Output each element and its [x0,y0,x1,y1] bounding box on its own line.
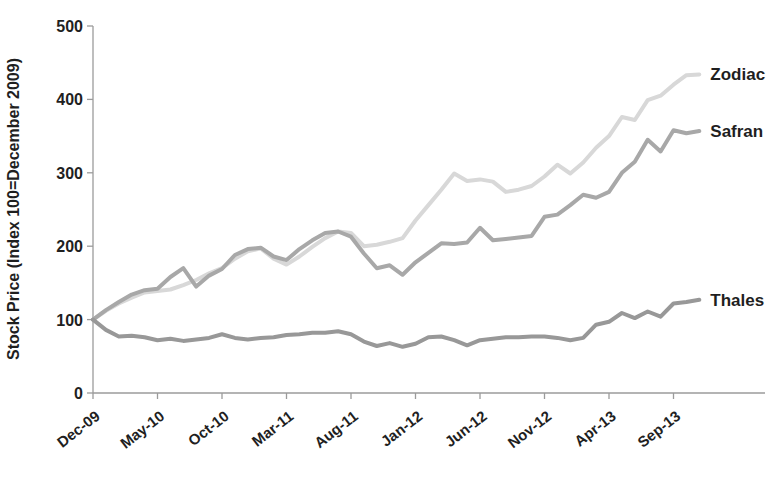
x-tick-label: Jan-12 [377,407,425,450]
series-lines [93,74,699,346]
y-tick-label: 0 [74,385,83,402]
series-label-thales: Thales [710,291,764,310]
y-tick-label: 100 [56,312,83,329]
series-label-zodiac: Zodiac [710,65,765,84]
series-labels: ZodiacSafranThales [710,65,765,309]
x-tick-label: Oct-10 [185,407,232,449]
stock-price-line-chart: Stock Price (Index 100=December 2009) 01… [0,0,770,482]
y-axis-ticks: 0100200300400500 [56,18,93,402]
x-tick-label: Apr-13 [571,407,619,450]
series-line-thales [93,300,699,347]
x-tick-label: Aug-11 [311,407,361,451]
y-axis-title: Stock Price (Index 100=December 2009) [5,58,22,360]
x-tick-label: Mar-11 [248,407,296,450]
x-axis-ticks: Dec-09May-10Oct-10Mar-11Aug-11Jan-12Jun-… [54,393,684,452]
x-tick-label: Jun-12 [441,407,490,450]
y-tick-label: 200 [56,238,83,255]
x-tick-label: Dec-09 [54,407,103,451]
y-tick-label: 300 [56,165,83,182]
series-label-safran: Safran [710,122,763,141]
y-tick-label: 500 [56,18,83,35]
series-line-zodiac [93,74,699,319]
x-tick-label: May-10 [117,407,168,452]
x-tick-label: Nov-12 [504,407,554,451]
x-tick-label: Sep-13 [634,407,683,451]
series-line-safran [93,130,699,319]
y-tick-label: 400 [56,91,83,108]
stock-price-chart-container: Stock Price (Index 100=December 2009) 01… [0,0,770,482]
